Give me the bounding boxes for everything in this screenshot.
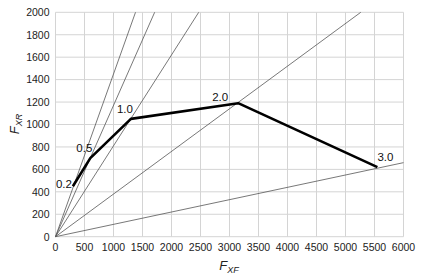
x-tick-label: 1000 — [102, 241, 126, 253]
x-tick-label: 0 — [53, 241, 59, 253]
x-tick-label: 3500 — [247, 241, 271, 253]
x-tick-label: 1500 — [131, 241, 155, 253]
x-axis-ticks: 0500100015002000250030003500400045005000… — [53, 241, 416, 253]
y-tick-label: 200 — [32, 208, 50, 220]
y-tick-label: 1600 — [26, 51, 50, 63]
x-tick-label: 500 — [76, 241, 94, 253]
y-tick-label: 0 — [44, 231, 50, 243]
y-tick-label: 1000 — [26, 118, 50, 130]
x-tick-label: 6000 — [392, 241, 416, 253]
series-line — [73, 103, 378, 186]
x-tick-label: 4500 — [305, 241, 329, 253]
point-label: 3.0 — [377, 151, 393, 163]
y-tick-label: 2000 — [26, 6, 50, 18]
chart-canvas: 0500100015002000250030003500400045005000… — [0, 0, 424, 277]
y-tick-label: 1200 — [26, 96, 50, 108]
point-label: 0.5 — [76, 142, 92, 154]
y-axis-ticks: 0200400600800100012001400160018002000 — [26, 6, 50, 242]
point-label: 0.2 — [56, 178, 72, 190]
x-axis-label: FXF — [219, 258, 239, 275]
x-tick-label: 2500 — [189, 241, 213, 253]
x-tick-label: 5000 — [334, 241, 358, 253]
x-tick-label: 3000 — [218, 241, 242, 253]
y-tick-label: 400 — [32, 186, 50, 198]
x-tick-label: 2000 — [160, 241, 184, 253]
y-tick-label: 1800 — [26, 29, 50, 41]
y-tick-label: 800 — [32, 141, 50, 153]
x-tick-label: 5500 — [363, 241, 387, 253]
data-series — [73, 103, 378, 186]
x-tick-label: 4000 — [276, 241, 300, 253]
y-tick-label: 1400 — [26, 73, 50, 85]
grid-lines — [56, 12, 404, 236]
point-label: 2.0 — [212, 91, 228, 103]
point-label: 1.0 — [117, 103, 133, 115]
y-axis-label: FXR — [7, 113, 24, 134]
y-tick-label: 600 — [32, 163, 50, 175]
